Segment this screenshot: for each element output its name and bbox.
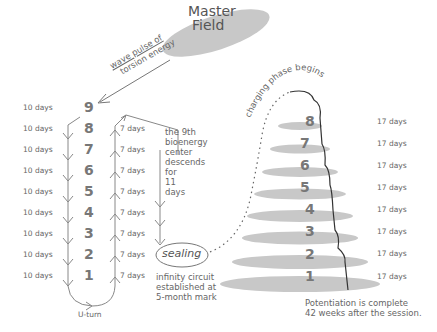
potentiation-line2: 42 weeks after the session. xyxy=(305,308,422,318)
charging-days-8: 17 days xyxy=(377,117,407,126)
charging-number-5: 5 xyxy=(300,179,310,195)
diagram-canvas: Master Field wave pulse of torsion energ… xyxy=(0,0,437,332)
charging-days-1: 17 days xyxy=(377,272,407,281)
charging-days-5: 17 days xyxy=(377,183,407,192)
charging-days-7: 17 days xyxy=(377,139,407,148)
charging-number-2: 2 xyxy=(305,246,315,262)
charging-number-3: 3 xyxy=(305,223,315,239)
potentiation-note: Potentiation is complete 42 weeks after … xyxy=(305,298,422,318)
charging-days-4: 17 days xyxy=(377,205,407,214)
charging-number-8: 8 xyxy=(305,113,315,129)
charging-phase-label: charging phase begins xyxy=(243,62,328,119)
charging-label-layer: charging phase begins xyxy=(0,0,437,332)
charging-number-7: 7 xyxy=(300,135,310,151)
charging-number-6: 6 xyxy=(300,157,310,173)
charging-number-4: 4 xyxy=(305,201,315,217)
charging-number-1: 1 xyxy=(305,268,315,284)
charging-days-6: 17 days xyxy=(377,161,407,170)
potentiation-line1: Potentiation is complete xyxy=(305,298,422,308)
charging-days-3: 17 days xyxy=(377,227,407,236)
charging-days-2: 17 days xyxy=(377,249,407,258)
